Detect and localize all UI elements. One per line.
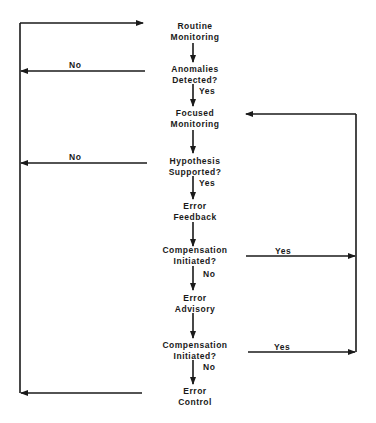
node-error-feedback: Error Feedback	[135, 201, 255, 222]
node-focused-monitoring: Focused Monitoring	[135, 108, 255, 129]
node-hypothesis-supported: Hypothesis Supported?	[135, 156, 255, 177]
node-anomalies-detected: Anomalies Detected?	[135, 64, 255, 85]
label-comp2-yes: Yes	[274, 342, 290, 352]
label-anomalies-no: No	[69, 60, 81, 70]
node-routine-monitoring: Routine Monitoring	[135, 21, 255, 42]
label-comp1-no: No	[203, 269, 215, 279]
node-compensation-initiated-1: Compensation Initiated?	[135, 245, 255, 266]
label-comp1-yes: Yes	[275, 246, 291, 256]
label-anomalies-yes: Yes	[199, 86, 215, 96]
node-compensation-initiated-2: Compensation Initiated?	[135, 340, 255, 361]
label-comp2-no: No	[203, 362, 215, 372]
node-error-control: Error Control	[135, 386, 255, 407]
label-hypothesis-yes: Yes	[199, 178, 215, 188]
label-hypothesis-no: No	[69, 152, 81, 162]
node-error-advisory: Error Advisory	[135, 293, 255, 314]
